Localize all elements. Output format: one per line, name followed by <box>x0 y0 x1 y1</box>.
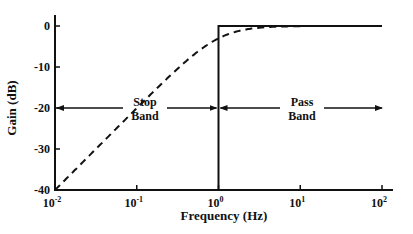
x-tick-label: 10-1 <box>124 195 143 210</box>
x-tick-label: 10-2 <box>43 195 62 210</box>
x-tick-label: 102 <box>371 195 387 210</box>
high-pass-filter-chart: 0-10-20-30-40 10-210-1100101102 Frequenc… <box>0 0 413 234</box>
y-ticks: 0-10-20-30-40 <box>34 19 60 197</box>
y-tick-label: 0 <box>44 19 50 33</box>
axes: 0-10-20-30-40 10-210-1100101102 <box>34 15 393 210</box>
y-tick-label: -40 <box>34 183 50 197</box>
x-axis-label: Frequency (Hz) <box>181 208 268 223</box>
x-tick-label: 101 <box>289 195 305 210</box>
y-axis-label: Gain (dB) <box>4 80 19 135</box>
y-tick-label: -30 <box>34 142 50 156</box>
x-ticks: 10-210-1100101102 <box>43 185 387 210</box>
y-tick-label: -10 <box>34 60 50 74</box>
stop-band-label: Stop <box>133 95 157 109</box>
pass-band-label: Band <box>288 109 316 123</box>
pass-band-label: Pass <box>291 95 314 109</box>
y-tick-label: -20 <box>34 101 50 115</box>
stop-band-label: Band <box>131 109 159 123</box>
